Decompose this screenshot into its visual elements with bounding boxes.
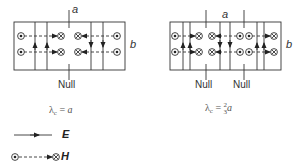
formula-rhs: a bbox=[68, 104, 73, 115]
right-dim-b-label: b bbox=[286, 38, 292, 50]
right-null-label-1: Null bbox=[195, 79, 212, 90]
legend bbox=[12, 135, 60, 160]
right-cutoff-formula: λc = 23a bbox=[205, 102, 232, 116]
left-cutoff-formula: λc = a bbox=[49, 104, 73, 117]
right-null-label-2: Null bbox=[233, 79, 250, 90]
left-null-label: Null bbox=[58, 79, 75, 90]
formula-rhs: a bbox=[227, 102, 232, 113]
equals-sign: = bbox=[215, 102, 221, 113]
waveguide-diagram bbox=[0, 0, 304, 167]
right-dim-a-label: a bbox=[222, 8, 228, 20]
right-mode-diagram bbox=[170, 10, 281, 80]
legend-e-label: E bbox=[62, 128, 69, 140]
subscript-c: c bbox=[54, 109, 57, 117]
subscript-c: c bbox=[210, 107, 213, 115]
left-dim-b-label: b bbox=[130, 38, 136, 50]
left-mode-diagram bbox=[14, 10, 125, 80]
legend-h-label: H bbox=[61, 150, 69, 162]
left-dim-a-label: a bbox=[72, 3, 78, 15]
equals-sign: = bbox=[59, 104, 65, 115]
